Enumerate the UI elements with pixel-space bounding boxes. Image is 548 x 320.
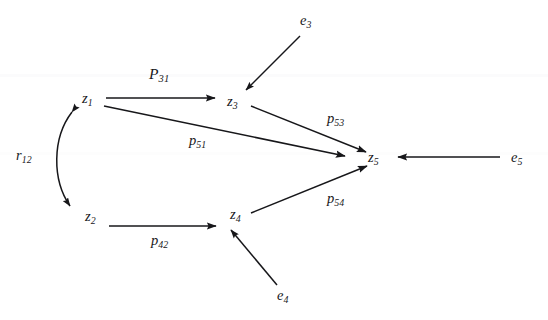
node-label-z2: z2 bbox=[85, 209, 96, 224]
node-label-z3: z3 bbox=[227, 94, 238, 109]
error-label-e3: e3 bbox=[300, 13, 312, 28]
path-label-p42: p42 bbox=[151, 233, 169, 248]
path-label-p53: p53 bbox=[327, 111, 345, 126]
path-label-p54: p54 bbox=[327, 191, 345, 206]
path-arrow-p51 bbox=[104, 106, 345, 156]
error-arrow-e4 bbox=[231, 230, 277, 285]
path-label-p31: P31 bbox=[149, 66, 169, 82]
node-label-z5: z5 bbox=[368, 150, 379, 165]
path-label-p51: p51 bbox=[189, 133, 207, 148]
path-arrow-p53 bbox=[251, 106, 366, 152]
node-label-z4: z4 bbox=[230, 207, 241, 222]
path-arrow-p54 bbox=[251, 166, 367, 213]
correlation-label-r12: r12 bbox=[16, 148, 32, 163]
correlation-arrow-r12 bbox=[57, 112, 72, 206]
error-label-e4: e4 bbox=[277, 288, 289, 303]
error-label-e5: e5 bbox=[511, 150, 523, 165]
node-label-z1: z1 bbox=[82, 91, 93, 106]
diagram-canvas bbox=[0, 0, 548, 320]
path-diagram-figure: z1 z2 z3 z4 z5 e3 e4 e5 P31 p51 p53 p54 … bbox=[0, 0, 548, 320]
error-arrow-e3 bbox=[246, 36, 300, 90]
